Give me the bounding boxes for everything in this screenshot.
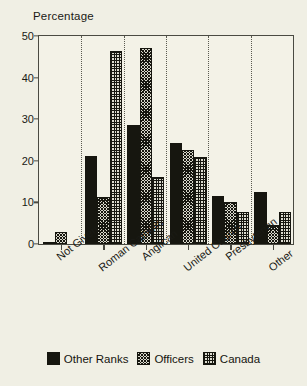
bar-other-ranks: [43, 242, 55, 244]
legend-item: Canada: [203, 352, 260, 365]
y-tick-label: 50: [22, 30, 34, 42]
y-tick-mark: [34, 119, 39, 120]
y-tick-label: 30: [22, 113, 34, 125]
bar-other-ranks: [127, 125, 139, 244]
group-separator: [81, 36, 82, 244]
bar-officers: [55, 232, 67, 244]
plot-area: 01020304050: [38, 35, 294, 245]
group-separator: [166, 36, 167, 244]
bar-officers: [97, 197, 109, 244]
y-tick-mark: [34, 77, 39, 78]
legend-swatch-icon: [203, 352, 216, 365]
plot-inner: [39, 36, 293, 244]
y-tick-mark: [34, 202, 39, 203]
bar-officers: [182, 150, 194, 244]
bar-canada: [110, 51, 122, 244]
bar-chart: Percentage 01020304050 Not GivenRoman Ca…: [0, 0, 307, 386]
x-tick-label: Other: [266, 247, 295, 273]
group-separator: [251, 36, 252, 244]
legend-item: Other Ranks: [47, 352, 129, 365]
legend-label: Other Ranks: [64, 353, 129, 365]
x-tick-mark: [188, 244, 189, 250]
y-tick-label: 20: [22, 155, 34, 167]
group-separator: [208, 36, 209, 244]
y-axis-title: Percentage: [33, 10, 94, 22]
chart-legend: Other RanksOfficersCanada: [0, 352, 307, 365]
y-tick-mark: [34, 160, 39, 161]
legend-item: Officers: [137, 352, 193, 365]
group-separator: [124, 36, 125, 244]
legend-label: Canada: [220, 353, 260, 365]
x-tick-mark: [273, 244, 274, 250]
legend-swatch-icon: [47, 352, 60, 365]
bar-officers: [140, 48, 152, 244]
y-tick-mark: [34, 35, 39, 36]
y-tick-label: 10: [22, 196, 34, 208]
x-tick-mark: [103, 244, 104, 250]
legend-swatch-icon: [137, 352, 150, 365]
bar-canada: [194, 157, 206, 244]
y-tick-label: 40: [22, 72, 34, 84]
legend-label: Officers: [154, 353, 193, 365]
y-tick-mark: [34, 243, 39, 244]
bar-canada: [279, 212, 291, 244]
